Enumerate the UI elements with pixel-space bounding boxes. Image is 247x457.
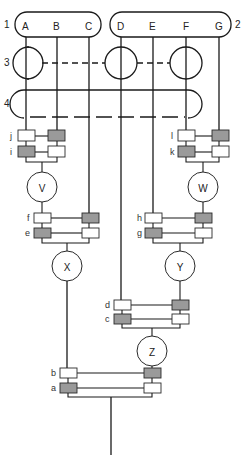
switch-label-f: f [27,213,30,223]
switch-h-left [145,213,162,223]
node-v-label: V [39,183,46,194]
row-3-circle-left-f [170,47,186,79]
switch-pair-ba [60,368,161,397]
input-label-g: G [215,21,223,32]
switch-f-left [34,213,51,223]
switch-a-left [60,383,77,393]
switch-b-right [144,368,161,378]
input-label-b: B [53,21,60,32]
switch-label-g: g [137,228,142,238]
node-z-label: Z [149,347,155,358]
switch-e-left [34,228,51,238]
input-label-e: E [149,21,156,32]
switch-j-right [48,130,65,141]
switch-l-right [212,130,229,141]
switch-pair-ji [18,130,65,172]
switch-g-right [195,228,212,238]
row-4-right-cap [188,90,202,118]
switch-label-a: a [51,383,56,393]
switch-c-left [114,314,131,324]
switch-label-h: h [137,213,142,223]
row-3-circle-right-f [186,47,202,79]
switch-i-left [18,146,35,157]
row-3-circle-right-a [27,47,43,79]
switch-f-right [82,213,99,223]
group-2-bracket [110,12,231,37]
switch-pair-hg [145,213,212,251]
row-4-label: 4 [4,98,10,109]
group-1-label: 1 [4,19,10,30]
merge-diagram: 1 2 A B C D E F G 3 4 j i V [0,0,247,457]
switch-c-right [172,314,189,324]
switch-label-l: l [171,131,173,141]
switch-l-left [178,130,195,141]
switch-d-left [114,300,131,310]
node-y-label: Y [177,262,184,273]
switch-pair-dc [114,300,189,336]
input-label-c: C [85,21,92,32]
switch-label-e: e [25,228,30,238]
switch-label-j: j [9,131,12,141]
switch-a-right [144,383,161,393]
row-4-left-cap [10,90,24,118]
group-2-label: 2 [235,19,241,30]
switch-label-b: b [51,368,56,378]
node-w-label: W [198,183,208,194]
switch-h-right [195,213,212,223]
switch-label-c: c [105,314,110,324]
switch-e-right [82,228,99,238]
switch-k-right [212,146,229,157]
input-label-a: A [22,21,29,32]
switch-d-right [172,300,189,310]
switch-pair-fe [34,213,99,251]
switch-pair-lk [178,130,229,172]
node-x-label: X [64,262,71,273]
switch-label-k: k [170,147,175,157]
switch-b-left [60,368,77,378]
input-label-d: D [117,21,124,32]
input-label-f: F [183,21,189,32]
switch-j-left [18,130,35,141]
switch-label-i: i [10,147,12,157]
row-3-circle-left-d [105,47,121,79]
switch-g-left [145,228,162,238]
switch-label-d: d [105,300,110,310]
switch-k-left [178,146,195,157]
row-3-label: 3 [4,57,10,68]
switch-i-right [48,146,65,157]
row-3-circle-right-d [121,47,137,79]
